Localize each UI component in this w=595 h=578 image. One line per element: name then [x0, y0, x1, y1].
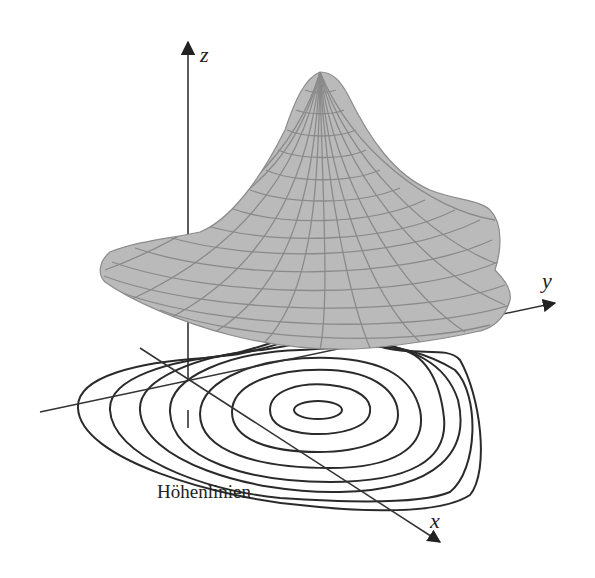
surface-contour-figure: z y x — [0, 0, 595, 578]
z-axis-label: z — [199, 42, 209, 67]
surface — [100, 72, 510, 350]
x-axis-label: x — [429, 508, 440, 533]
y-axis-label: y — [540, 268, 552, 293]
contour-label: Höhenlinien — [157, 481, 251, 502]
